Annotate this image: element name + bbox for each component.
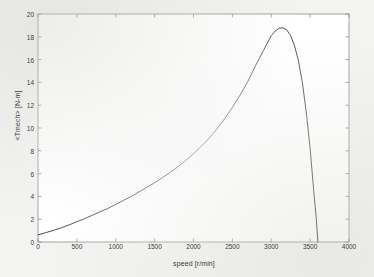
y-tick-label: 10 xyxy=(27,125,34,132)
x-tick-label: 1000 xyxy=(109,243,123,250)
y-tick-label: 20 xyxy=(27,11,34,18)
x-tick-label: 3500 xyxy=(303,243,317,250)
y-tick-label: 12 xyxy=(27,102,34,109)
torque-speed-plot xyxy=(0,0,374,277)
y-tick-label: 8 xyxy=(30,147,34,154)
y-tick-label: 16 xyxy=(27,56,34,63)
x-tick-label: 2500 xyxy=(225,243,239,250)
y-axis-label: <Tmech> [N-m] xyxy=(14,66,21,166)
x-tick-label: 1500 xyxy=(147,243,161,250)
plot-area-background xyxy=(38,14,349,242)
x-tick-label: 0 xyxy=(36,243,40,250)
y-tick-label: 0 xyxy=(30,239,34,246)
y-tick-label: 6 xyxy=(30,170,34,177)
x-axis-label: speed [r/min] xyxy=(38,260,350,267)
x-tick-label: 2000 xyxy=(186,243,200,250)
x-tick-label: 3000 xyxy=(264,243,278,250)
x-tick-label: 4000 xyxy=(342,243,356,250)
y-tick-label: 2 xyxy=(30,216,34,223)
y-tick-label: 18 xyxy=(27,33,34,40)
chart-screenshot: <Tmech> [N-m] speed [r/min] 050010001500… xyxy=(0,0,374,277)
y-tick-label: 14 xyxy=(27,79,34,86)
y-tick-label: 4 xyxy=(30,193,34,200)
x-tick-label: 500 xyxy=(71,243,82,250)
